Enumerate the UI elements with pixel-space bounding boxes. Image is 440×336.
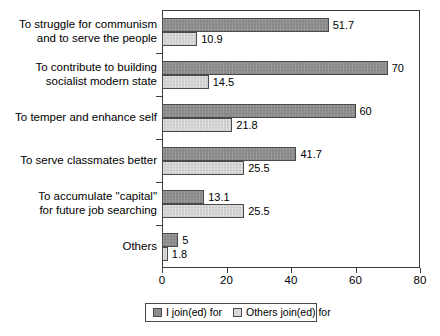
legend-item-0: I join(ed) for — [153, 307, 222, 318]
x-axis-tick-label: 40 — [285, 274, 298, 286]
category-label: To struggle for communismand to serve th… — [0, 18, 157, 45]
bar-i-joined — [162, 147, 296, 161]
bar-value-label: 21.8 — [232, 118, 257, 132]
x-axis-tick — [291, 268, 292, 273]
y-axis-tick — [156, 225, 162, 226]
legend-item-1: Others join(ed) for — [233, 307, 331, 318]
bar-others-joined — [162, 161, 244, 175]
legend-label-others-joined: Others join(ed) for — [246, 307, 331, 318]
bar-chart: To struggle for communismand to serve th… — [0, 0, 440, 336]
x-axis-tick-label: 0 — [159, 274, 165, 286]
x-axis-tick — [162, 268, 163, 273]
bar-value-label: 1.8 — [168, 247, 187, 261]
bar-others-joined — [162, 204, 244, 218]
bar-value-label: 60 — [356, 104, 372, 118]
y-axis-tick — [156, 96, 162, 97]
y-axis-tick — [156, 182, 162, 183]
category-label: To contribute to buildingsocialist moder… — [0, 61, 157, 88]
bar-i-joined — [162, 104, 356, 118]
bar-value-label: 41.7 — [296, 147, 321, 161]
y-axis-tick — [156, 53, 162, 54]
bar-value-label: 51.7 — [329, 18, 354, 32]
bar-value-label: 14.5 — [209, 75, 234, 89]
bar-i-joined — [162, 18, 329, 32]
legend-swatch-others-joined — [233, 308, 242, 317]
x-axis-tick — [356, 268, 357, 273]
chart-legend: I join(ed) for Others join(ed) for — [145, 303, 317, 322]
x-axis-tick-label: 80 — [414, 274, 427, 286]
bar-others-joined — [162, 32, 197, 46]
plot-area — [162, 10, 420, 268]
bar-value-label: 25.5 — [244, 161, 269, 175]
category-label: To serve classmates better — [0, 154, 157, 168]
bar-i-joined — [162, 233, 178, 247]
x-axis-tick — [420, 268, 421, 273]
bar-others-joined — [162, 118, 232, 132]
bar-i-joined — [162, 190, 204, 204]
legend-label-i-joined: I join(ed) for — [166, 307, 222, 318]
bar-value-label: 13.1 — [204, 190, 229, 204]
category-label: To accumulate "capital"for future job se… — [0, 190, 157, 217]
x-axis-tick-label: 60 — [349, 274, 362, 286]
legend-swatch-i-joined — [153, 308, 162, 317]
bar-value-label: 25.5 — [244, 204, 269, 218]
bar-i-joined — [162, 61, 388, 75]
category-label: To temper and enhance self — [0, 111, 157, 125]
x-axis-tick — [227, 268, 228, 273]
bar-value-label: 70 — [388, 61, 404, 75]
y-axis-tick — [156, 139, 162, 140]
category-label: Others — [0, 240, 157, 254]
bar-value-label: 10.9 — [197, 32, 222, 46]
x-axis-tick-label: 20 — [220, 274, 233, 286]
bar-value-label: 5 — [178, 233, 188, 247]
bar-others-joined — [162, 75, 209, 89]
